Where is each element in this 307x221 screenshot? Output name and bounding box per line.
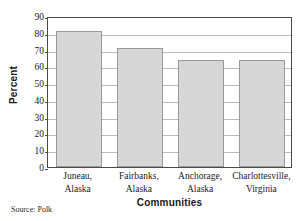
y-axis-tick-label: 80	[24, 28, 44, 40]
x-axis-tick-label: Anchorage,Alaska	[170, 170, 231, 195]
bar	[239, 60, 285, 167]
x-axis-tick-label-line: Fairbanks,	[108, 170, 169, 183]
x-axis-tick-label-line: Alaska	[47, 183, 108, 196]
y-axis-tick-label: 0	[24, 162, 44, 174]
x-axis-tick-label-line: Alaska	[108, 183, 169, 196]
y-axis-title: Percent	[7, 50, 21, 120]
x-axis-tick-label-line: Alaska	[170, 183, 231, 196]
x-axis-tick-label-line: Charlottesville,	[231, 170, 292, 183]
source-note: Source: Polk	[11, 205, 52, 215]
y-axis-tick-label: 90	[24, 11, 44, 23]
plot-area	[47, 17, 292, 168]
bar	[178, 60, 224, 167]
bar	[56, 31, 102, 167]
x-axis-title: Communities	[47, 196, 292, 209]
y-axis-tick-label: 70	[24, 45, 44, 57]
x-axis-tick-label: Fairbanks,Alaska	[108, 170, 169, 195]
y-axis-tick-label: 10	[24, 145, 44, 157]
y-axis-tick-label: 30	[24, 112, 44, 124]
y-axis-tick-label: 40	[24, 95, 44, 107]
y-axis-tick-label: 50	[24, 78, 44, 90]
y-axis-tick-labels: 0102030405060708090	[24, 11, 44, 169]
x-axis-tick-labels: Juneau,AlaskaFairbanks,AlaskaAnchorage,A…	[47, 170, 292, 196]
x-axis-tick-label: Juneau,Alaska	[47, 170, 108, 195]
bar	[117, 48, 163, 167]
bar-chart-figure: Percent 0102030405060708090 Juneau,Alask…	[0, 0, 307, 221]
bars-group	[48, 18, 291, 167]
y-axis-tick-label: 60	[24, 61, 44, 73]
x-axis-tick-label: Charlottesville,Virginia	[231, 170, 292, 195]
x-axis-tick-label-line: Juneau,	[47, 170, 108, 183]
x-axis-tick-label-line: Virginia	[231, 183, 292, 196]
y-axis-tick-label: 20	[24, 128, 44, 140]
x-axis-tick-label-line: Anchorage,	[170, 170, 231, 183]
